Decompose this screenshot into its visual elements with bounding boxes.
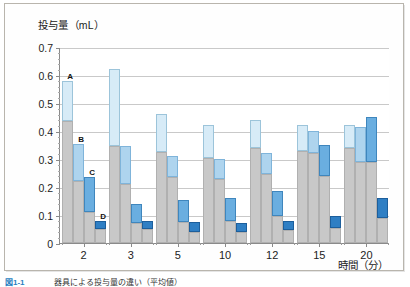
- bar-base-segment: [272, 216, 283, 243]
- bar-a-2min: [62, 81, 73, 243]
- x-tick-mark: [319, 243, 320, 247]
- bar-d-12min: [283, 221, 294, 243]
- bar-top-segment: [355, 127, 366, 162]
- bar-b-3min: [120, 146, 131, 243]
- y-minor-tick: [58, 126, 60, 127]
- y-tick-label: 0.2: [38, 182, 53, 194]
- bar-base-segment: [214, 179, 225, 243]
- bar-top-segment: [120, 146, 131, 184]
- y-tick-label: 0.7: [38, 42, 53, 54]
- bar-base-segment: [131, 223, 142, 243]
- bar-base-segment: [142, 229, 153, 243]
- bar-base-segment: [261, 174, 272, 243]
- bar-a-12min: [250, 120, 261, 243]
- y-minor-tick: [58, 143, 60, 144]
- bar-b-2min: [73, 144, 84, 243]
- x-tick-label: 10: [219, 249, 231, 261]
- x-minor-tick: [109, 243, 110, 245]
- bar-top-segment: [95, 221, 106, 229]
- caption-text: 器具による投与量の違い（平均値）: [54, 278, 182, 287]
- bar-a-3min: [109, 69, 120, 243]
- bar-a-15min: [297, 125, 308, 243]
- bar-c-15min: [319, 145, 330, 243]
- y-tick-label: 0: [47, 238, 53, 250]
- y-tick-mark: [56, 132, 60, 133]
- y-minor-tick: [58, 92, 60, 93]
- bar-base-segment: [308, 153, 319, 243]
- bar-top-segment: [283, 221, 294, 231]
- x-tick-label: 15: [313, 249, 325, 261]
- bar-top-segment: [189, 222, 200, 232]
- bar-top-segment: [214, 159, 225, 179]
- y-tick-mark: [56, 76, 60, 77]
- bar-base-segment: [377, 218, 388, 243]
- bar-top-segment: [297, 125, 308, 150]
- series-label-a: A: [67, 72, 73, 81]
- bar-top-segment: [272, 191, 283, 216]
- y-minor-tick: [58, 109, 60, 110]
- bar-top-segment: [203, 125, 214, 157]
- bar-base-segment: [156, 152, 167, 243]
- bar-c-5min: [178, 200, 189, 243]
- bar-d-2min: [95, 221, 106, 243]
- bar-base-segment: [62, 121, 73, 243]
- bar-base-segment: [236, 232, 247, 243]
- bar-base-segment: [330, 228, 341, 243]
- x-minor-tick: [203, 243, 204, 245]
- bar-top-segment: [142, 221, 153, 229]
- series-label-d: D: [100, 212, 106, 221]
- y-minor-tick: [58, 64, 60, 65]
- bar-base-segment: [355, 162, 366, 243]
- y-tick-label: 0.3: [38, 154, 53, 166]
- bar-top-segment: [109, 69, 120, 146]
- y-tick-label: 0.5: [38, 98, 53, 110]
- y-minor-tick: [58, 221, 60, 222]
- bar-c-10min: [225, 198, 236, 243]
- bar-base-segment: [297, 151, 308, 243]
- y-tick-mark: [56, 160, 60, 161]
- bar-a-10min: [203, 125, 214, 243]
- bar-b-15min: [308, 131, 319, 243]
- y-minor-tick: [58, 232, 60, 233]
- bar-top-segment: [225, 198, 236, 220]
- bar-top-segment: [167, 156, 178, 177]
- y-minor-tick: [58, 154, 60, 155]
- bar-top-segment: [73, 144, 84, 182]
- y-minor-tick: [58, 227, 60, 228]
- bar-top-segment: [178, 200, 189, 222]
- y-minor-tick: [58, 204, 60, 205]
- bar-b-20min: [355, 127, 366, 243]
- x-minor-tick: [297, 243, 298, 245]
- y-minor-tick: [58, 210, 60, 211]
- bar-top-segment: [62, 81, 73, 122]
- x-minor-tick: [156, 243, 157, 245]
- y-minor-tick: [58, 171, 60, 172]
- bar-base-segment: [250, 148, 261, 243]
- y-minor-tick: [58, 199, 60, 200]
- y-minor-tick: [58, 120, 60, 121]
- bar-base-segment: [189, 232, 200, 243]
- bar-a-20min: [344, 125, 355, 243]
- x-minor-tick: [62, 243, 63, 245]
- x-tick-label: 12: [266, 249, 278, 261]
- caption-number: 図1-1: [5, 278, 25, 287]
- bar-top-segment: [366, 117, 377, 162]
- y-minor-tick: [58, 59, 60, 60]
- bar-c-3min: [131, 204, 142, 243]
- y-tick-label: 0.4: [38, 126, 53, 138]
- bar-d-20min: [377, 198, 388, 243]
- bar-base-segment: [109, 146, 120, 243]
- bar-base-segment: [366, 162, 377, 243]
- chart-plot-area: 00.10.20.30.40.50.60.7ABCD23510121520: [59, 48, 389, 244]
- bar-top-segment: [261, 153, 272, 174]
- figure-sheet: 投与量（mL） 00.10.20.30.40.50.60.7ABCD235101…: [0, 0, 410, 287]
- x-minor-tick: [344, 243, 345, 245]
- bar-top-segment: [330, 216, 341, 227]
- figure-panel: 投与量（mL） 00.10.20.30.40.50.60.7ABCD235101…: [4, 3, 404, 271]
- x-tick-label: 3: [128, 249, 134, 261]
- bar-top-segment: [344, 125, 355, 147]
- x-tick-mark: [84, 243, 85, 247]
- bar-base-segment: [95, 229, 106, 243]
- x-tick-mark: [131, 243, 132, 247]
- y-minor-tick: [58, 137, 60, 138]
